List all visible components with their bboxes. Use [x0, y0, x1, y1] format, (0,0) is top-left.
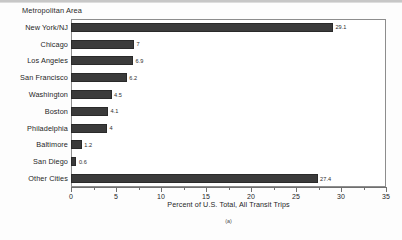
bar [71, 23, 333, 32]
bar-track: 4.5 [71, 86, 386, 103]
bar-row: San Francisco6.2 [0, 69, 402, 86]
x-axis-tick-label: 30 [337, 193, 345, 200]
bar-category-label: Washington [0, 90, 68, 99]
bar-category-label: San Diego [0, 157, 68, 166]
bar-category-label: San Francisco [0, 73, 68, 82]
bar-track: 1.2 [71, 137, 386, 154]
bar-track: 27.4 [71, 170, 386, 187]
x-axis-tick-label: 20 [247, 193, 255, 200]
x-axis-minor-tick [229, 187, 230, 190]
bar [71, 157, 76, 166]
bar-row: San Diego0.6 [0, 153, 402, 170]
bar [71, 56, 133, 65]
figure-container: Metropolitan Area New York/NJ29.1Chicago… [0, 0, 402, 240]
bar-track: 29.1 [71, 19, 386, 36]
bar-category-label: Philadelphia [0, 124, 68, 133]
x-axis-title: Percent of U.S. Total, All Transit Trips [71, 200, 386, 209]
x-axis-major-tick [161, 187, 162, 192]
bar [71, 40, 134, 49]
panel-caption: (a) [71, 218, 386, 224]
bar [71, 140, 82, 149]
bar-track: 4.1 [71, 103, 386, 120]
x-axis-major-tick [386, 187, 387, 192]
x-axis-major-tick [296, 187, 297, 192]
bar-row: Chicago7 [0, 36, 402, 53]
x-axis-tick-label: 25 [292, 193, 300, 200]
x-axis-major-tick [71, 187, 72, 192]
bar-row: Other Cities27.4 [0, 170, 402, 187]
bar-row: Los Angeles6.9 [0, 53, 402, 70]
bar [71, 124, 107, 133]
bar-value-label: 1.2 [84, 142, 92, 148]
bar [71, 73, 127, 82]
x-axis-tick-label: 5 [114, 193, 118, 200]
bar-row: Washington4.5 [0, 86, 402, 103]
bar-track: 0.6 [71, 153, 386, 170]
bar-row: New York/NJ29.1 [0, 19, 402, 36]
bar-category-label: New York/NJ [0, 23, 68, 32]
bar-track: 6.9 [71, 53, 386, 70]
bar-value-label: 6.9 [136, 58, 144, 64]
bar-value-label: 4.1 [110, 108, 118, 114]
x-axis-minor-tick [364, 187, 365, 190]
bar-value-label: 27.4 [320, 176, 331, 182]
bar [71, 107, 108, 116]
bar-row: Boston4.1 [0, 103, 402, 120]
x-axis-major-tick [206, 187, 207, 192]
bar-value-label: 0.6 [79, 159, 87, 165]
bar-category-label: Chicago [0, 40, 68, 49]
bar [71, 90, 112, 99]
bar-track: 7 [71, 36, 386, 53]
bar-rows-container: New York/NJ29.1Chicago7Los Angeles6.9San… [0, 19, 402, 187]
x-axis-tick-label: 15 [202, 193, 210, 200]
scan-edge-line-secondary [0, 2, 402, 3]
x-axis-minor-tick [94, 187, 95, 190]
x-axis-minor-tick [139, 187, 140, 190]
bar-row: Philadelphia4 [0, 120, 402, 137]
bar-value-label: 7 [137, 41, 140, 47]
x-axis-minor-tick [184, 187, 185, 190]
x-axis-tick-label: 35 [382, 193, 390, 200]
bar-track: 6.2 [71, 69, 386, 86]
bar-value-label: 29.1 [335, 24, 346, 30]
x-axis-major-tick [116, 187, 117, 192]
bar [71, 174, 318, 183]
x-axis-minor-tick [319, 187, 320, 190]
bar-category-label: Other Cities [0, 174, 68, 183]
chart-group-title: Metropolitan Area [22, 6, 82, 15]
bar-value-label: 4 [110, 125, 113, 131]
x-axis-major-tick [251, 187, 252, 192]
bar-category-label: Los Angeles [0, 56, 68, 65]
bar-category-label: Baltimore [0, 140, 68, 149]
bar-category-label: Boston [0, 107, 68, 116]
bar-row: Baltimore1.2 [0, 137, 402, 154]
bar-value-label: 6.2 [129, 75, 137, 81]
bar-value-label: 4.5 [114, 92, 122, 98]
x-axis-tick-label: 10 [157, 193, 165, 200]
x-axis-minor-tick [274, 187, 275, 190]
bar-track: 4 [71, 120, 386, 137]
x-axis-major-tick [341, 187, 342, 192]
x-axis-tick-label: 0 [69, 193, 73, 200]
